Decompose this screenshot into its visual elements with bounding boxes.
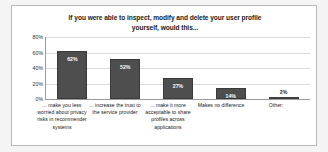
bar-slot-2: 52% xyxy=(99,37,152,99)
plot-area: 80% 60% 40% 20% 0% 62% 52% 27% xyxy=(45,37,310,100)
bar-makes-no-difference[interactable]: 14% xyxy=(216,88,246,99)
chart-plot-frame: If you were able to inspect, modify and … xyxy=(11,5,317,146)
category-label-1: ... make you less worried about privacy … xyxy=(34,102,90,131)
chart-title-line-1: If you were able to inspect, modify and … xyxy=(36,13,294,23)
category-label-3: ... make it more acceptable to share pro… xyxy=(141,102,195,131)
chart-figure: If you were able to inspect, modify and … xyxy=(0,0,328,152)
ytick-label-60: 60% xyxy=(33,50,43,56)
bar-value-2: 52% xyxy=(120,64,130,70)
category-label-5: Other: xyxy=(250,102,302,109)
ytick-label-20: 20% xyxy=(33,81,43,87)
bar-value-1: 62% xyxy=(67,56,77,62)
bar-value-3: 27% xyxy=(173,83,183,89)
chart-title: If you were able to inspect, modify and … xyxy=(36,13,294,32)
ytick-label-80: 80% xyxy=(33,34,43,40)
chart-title-line-2: yourself, would this... xyxy=(36,23,294,33)
bar-make-it-more-acceptable[interactable]: 27% xyxy=(163,78,193,99)
category-label-4: Makes no difference xyxy=(192,102,250,109)
bar-make-you-less-worried[interactable]: 62% xyxy=(57,51,87,99)
bar-value-5: 2% xyxy=(280,89,288,95)
bar-other[interactable]: 2% xyxy=(269,97,299,99)
ytick-label-40: 40% xyxy=(33,65,43,71)
bar-slot-4: 14% xyxy=(204,37,257,99)
bar-slot-5: 2% xyxy=(257,37,310,99)
bar-value-4: 14% xyxy=(226,93,236,99)
bar-slot-1: 62% xyxy=(46,37,99,99)
bar-slot-3: 27% xyxy=(152,37,205,99)
bar-increase-the-trust[interactable]: 52% xyxy=(110,59,140,99)
category-label-2: ... increase the trust to the service pr… xyxy=(88,102,142,116)
